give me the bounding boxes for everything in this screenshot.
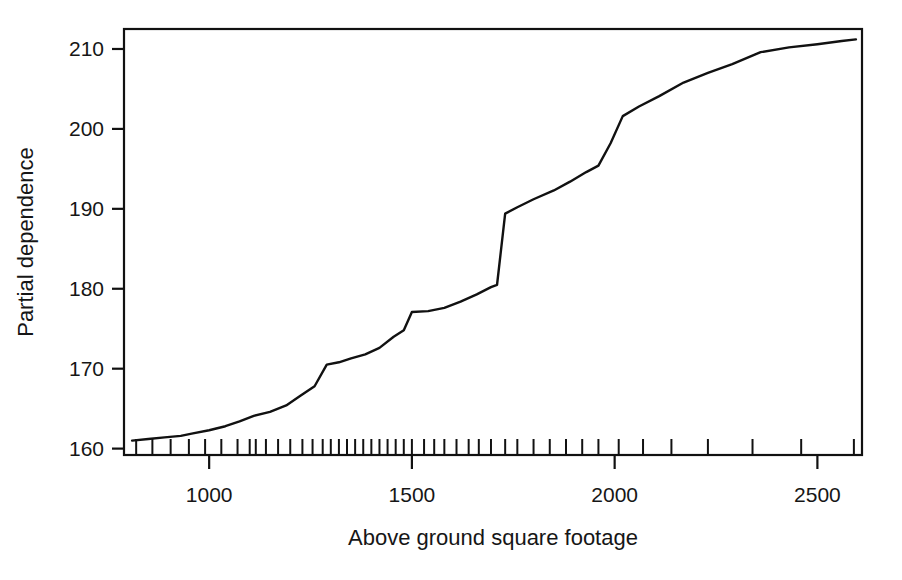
y-tick-label: 210 bbox=[69, 37, 104, 60]
figure-background bbox=[0, 0, 902, 580]
x-tick-label: 2500 bbox=[794, 483, 841, 506]
y-tick-label: 190 bbox=[69, 197, 104, 220]
chart-canvas: 160170180190200210 1000150020002500 Abov… bbox=[0, 0, 902, 580]
partial-dependence-figure: 160170180190200210 1000150020002500 Abov… bbox=[0, 0, 902, 580]
x-tick-label: 2000 bbox=[591, 483, 638, 506]
x-tick-label: 1000 bbox=[186, 483, 233, 506]
x-axis-title: Above ground square footage bbox=[348, 525, 638, 550]
y-tick-label: 180 bbox=[69, 277, 104, 300]
y-axis-title: Partial dependence bbox=[13, 147, 38, 337]
y-tick-label: 200 bbox=[69, 117, 104, 140]
y-tick-label: 170 bbox=[69, 357, 104, 380]
y-tick-label: 160 bbox=[69, 437, 104, 460]
x-tick-label: 1500 bbox=[389, 483, 436, 506]
